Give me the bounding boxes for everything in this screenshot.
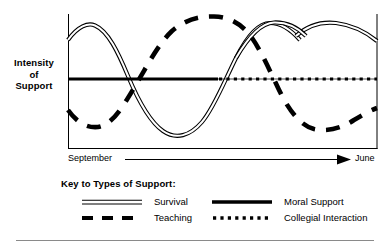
legend-label-survival: Survival [154,195,188,209]
bottom-divider [16,240,374,241]
series-teaching [68,16,377,130]
plot-area [0,0,389,160]
legend-title: Key to Types of Support: [61,178,176,189]
x-axis-end-label: June [355,153,375,164]
series-survival-mid [236,22,306,58]
figure-container: Intensity of Support [0,0,389,247]
x-axis-start-label: September [68,153,112,164]
legend-swatch-moral [212,195,278,209]
legend-label-collegial-interaction: Collegial Interaction [284,211,367,225]
legend-label-moral-support: Moral Support [284,195,344,209]
legend-label-teaching: Teaching [154,211,192,225]
legend-swatch-collegial [212,211,278,225]
x-axis-arrow-head [337,155,351,165]
legend-swatch-survival [82,195,148,209]
x-axis-arrow [125,152,355,166]
legend: Key to Types of Support: Survival Teachi… [0,178,389,233]
series-survival-tail [296,23,377,41]
legend-swatch-teaching [82,211,148,225]
